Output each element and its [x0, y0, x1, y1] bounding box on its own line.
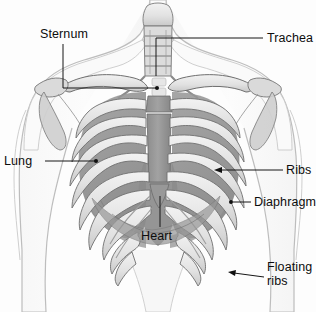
leader-sternum-dot	[155, 86, 159, 90]
leader-floating-ribs-arrowhead	[228, 270, 236, 276]
label-lung: Lung	[4, 154, 32, 168]
label-trachea: Trachea	[267, 31, 313, 45]
label-floating-ribs: Floating ribs	[267, 260, 312, 288]
leader-floating-ribs	[234, 273, 264, 277]
vertebrae	[152, 78, 166, 96]
label-heart: Heart	[141, 229, 172, 243]
label-ribs: Ribs	[286, 163, 311, 177]
label-sternum: Sternum	[40, 27, 88, 41]
leader-diaphragm-dot	[229, 200, 233, 204]
anatomy-diagram: Sternum Trachea Lung Ribs Diaphragm Hear…	[0, 0, 316, 312]
label-diaphragm: Diaphragm	[254, 195, 316, 209]
leader-lung-dot	[94, 159, 98, 163]
